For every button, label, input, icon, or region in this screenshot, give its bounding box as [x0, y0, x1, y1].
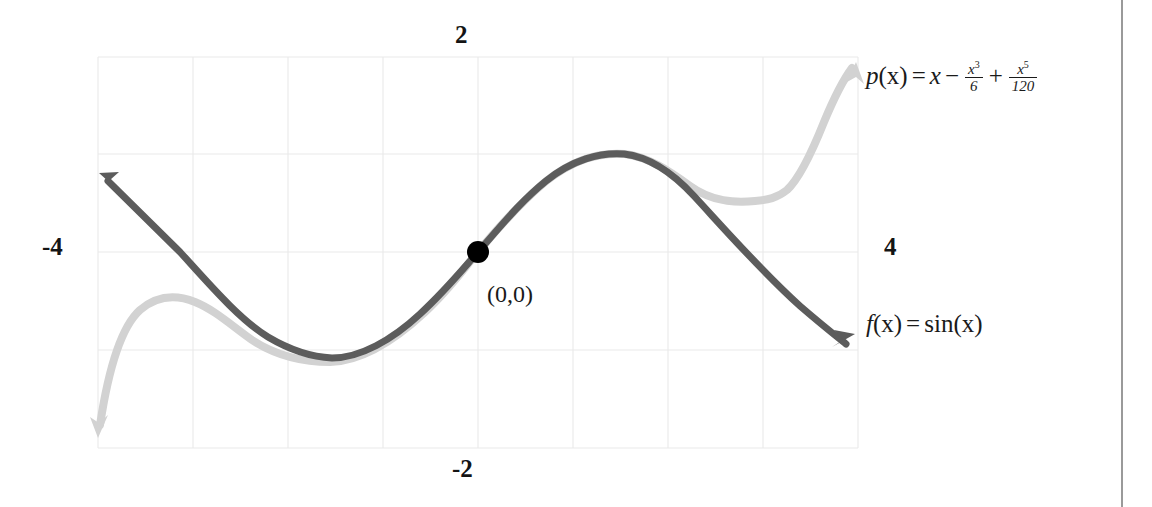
axis-label-bottom: -2: [452, 455, 473, 483]
origin-point-marker: [467, 241, 489, 263]
sine-body-arg: (x): [953, 310, 982, 337]
taylor-frac1-denominator: 6: [965, 78, 983, 94]
taylor-equation-label: p(x)=x− x3 6 + x5 120: [866, 62, 1039, 95]
taylor-equals: =: [908, 62, 930, 89]
sine-equals: =: [902, 310, 924, 337]
taylor-frac1-numerator: x3: [965, 61, 983, 78]
origin-coordinate-label: (0,0): [487, 281, 533, 308]
taylor-frac2-exponent: 5: [1024, 59, 1029, 70]
taylor-fraction-quintic: x5 120: [1009, 61, 1038, 94]
sine-equation-label: f(x)=sin(x): [866, 310, 983, 338]
taylor-fn-name: p: [866, 62, 879, 89]
sine-fn-name: f: [866, 310, 873, 337]
taylor-frac2-denominator: 120: [1009, 78, 1038, 94]
taylor-frac2-numerator: x5: [1009, 61, 1038, 78]
taylor-minus: −: [941, 62, 963, 89]
sine-body: sin: [924, 310, 953, 337]
axis-label-top: 2: [455, 21, 468, 49]
math-plot-figure: 2 -2 -4 4 (0,0) p(x)=x− x3 6 + x5 120 f(…: [0, 0, 1152, 507]
sine-fn-arg: (x): [873, 310, 902, 337]
taylor-frac1-var: x: [968, 61, 975, 77]
axis-label-right: 4: [884, 233, 897, 261]
taylor-plus: +: [985, 62, 1007, 89]
taylor-frac2-var: x: [1017, 61, 1024, 77]
axis-label-left: -4: [42, 233, 63, 261]
taylor-frac1-exponent: 3: [975, 59, 980, 70]
taylor-term-x: x: [930, 62, 941, 89]
taylor-fraction-cubic: x3 6: [965, 61, 983, 94]
page-edge-line: [1121, 0, 1123, 507]
taylor-fn-arg: (x): [879, 62, 908, 89]
